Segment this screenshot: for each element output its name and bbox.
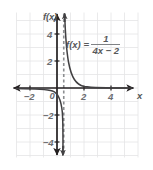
function-equation-annotation: f(x) = 1 4x − 2 (66, 34, 120, 55)
y-tick-label-2: 2 (47, 57, 52, 67)
y-tick-label-4: 4 (47, 30, 52, 40)
function-graph-figure: f(x) x −2 0 2 4 4 2 −2 −4 f(x) = 1 4x − … (0, 0, 153, 170)
equation-numerator: 1 (100, 34, 111, 44)
graph-canvas (0, 0, 153, 170)
y-tick-label-neg2: −2 (43, 111, 53, 121)
y-tick-label-neg4: −4 (43, 138, 53, 148)
equation-denominator: 4x − 2 (91, 45, 120, 55)
x-tick-label-neg2: −2 (24, 92, 34, 102)
x-tick-label-0: 0 (50, 91, 55, 101)
equation-left-side: f(x) = (66, 40, 89, 50)
x-axis-label: x (137, 91, 142, 101)
equation-fraction: 1 4x − 2 (91, 34, 120, 55)
y-axis-label: f(x) (43, 12, 57, 22)
x-tick-label-2: 2 (81, 92, 86, 102)
x-tick-label-4: 4 (108, 92, 113, 102)
